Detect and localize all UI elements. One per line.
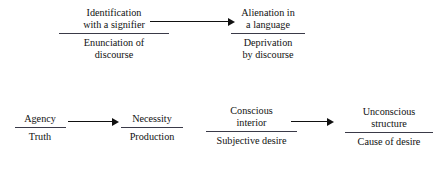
fraction-bar (345, 132, 433, 133)
arrow-identification-to-alienation (150, 17, 236, 27)
node-identification: Identification with a signifier Enunciat… (56, 7, 172, 61)
arrow-shaft (291, 121, 328, 122)
node-alienation: Alienation in a language Deprivation by … (229, 7, 307, 61)
node-agency-numerator: Agency (12, 113, 68, 125)
node-alienation-numerator: Alienation in a language (229, 7, 307, 31)
arrow-conscious-to-unconscious (291, 117, 335, 127)
concept-diagram: Identification with a signifier Enunciat… (0, 0, 439, 173)
node-necessity-numerator: Necessity (119, 113, 185, 125)
arrow-head-icon (327, 118, 334, 126)
node-conscious-interior: Conscious interior Subjective desire (205, 105, 298, 147)
fraction-bar (206, 131, 297, 132)
node-conscious-interior-denominator: Subjective desire (205, 135, 298, 147)
node-necessity: Necessity Production (119, 113, 185, 143)
arrow-head-icon (112, 118, 119, 126)
node-unconscious-structure-numerator: Unconscious structure (344, 106, 434, 130)
node-unconscious-structure: Unconscious structure Cause of desire (344, 106, 434, 148)
node-agency-denominator: Truth (12, 131, 68, 143)
fraction-bar (231, 33, 305, 34)
arrow-shaft (150, 21, 229, 22)
arrow-agency-to-necessity (68, 117, 120, 127)
node-agency: Agency Truth (12, 113, 68, 143)
node-conscious-interior-numerator: Conscious interior (205, 105, 298, 129)
node-necessity-denominator: Production (119, 131, 185, 143)
node-identification-denominator: Enunciation of discourse (56, 37, 172, 61)
fraction-bar (59, 33, 169, 34)
fraction-bar (121, 127, 183, 128)
node-alienation-denominator: Deprivation by discourse (229, 37, 307, 61)
arrow-shaft (68, 121, 113, 122)
node-unconscious-structure-denominator: Cause of desire (344, 136, 434, 148)
fraction-bar (15, 127, 66, 128)
